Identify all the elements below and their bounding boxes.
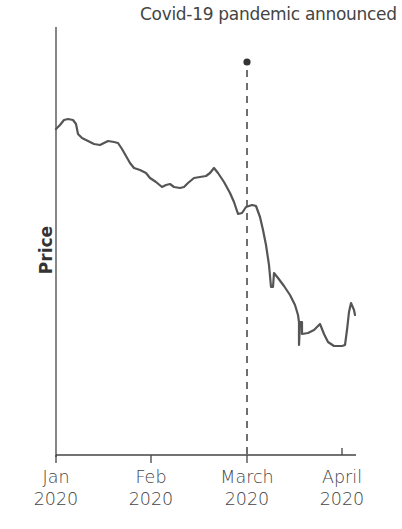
x-tick-label-year: 2020 bbox=[207, 488, 287, 510]
x-tick-label-month: March bbox=[207, 466, 287, 488]
x-tick-label-month: Jan bbox=[16, 466, 96, 488]
x-tick-label-month: April bbox=[302, 466, 382, 488]
x-tick-label-year: 2020 bbox=[16, 488, 96, 510]
price-chart bbox=[0, 0, 402, 529]
price-series-line bbox=[56, 119, 355, 346]
x-tick-label-year: 2020 bbox=[111, 488, 191, 510]
x-tick-label-april: April 2020 bbox=[302, 466, 382, 510]
x-tick-label-year: 2020 bbox=[302, 488, 382, 510]
x-tick-label-feb: Feb 2020 bbox=[111, 466, 191, 510]
x-tick-label-jan: Jan 2020 bbox=[16, 466, 96, 510]
annotation-label: Covid-19 pandemic announced bbox=[140, 4, 400, 24]
y-axis-label: Price bbox=[36, 220, 56, 280]
annotation-dot-icon bbox=[243, 58, 250, 65]
x-tick-label-month: Feb bbox=[111, 466, 191, 488]
x-tick-label-march: March 2020 bbox=[207, 466, 287, 510]
